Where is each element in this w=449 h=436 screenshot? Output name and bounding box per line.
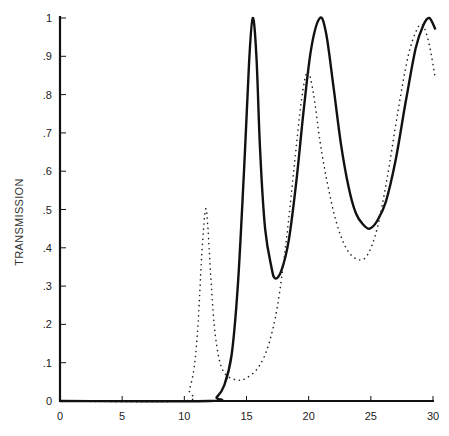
solid-series-line xyxy=(60,17,436,401)
x-tick-label: 5 xyxy=(119,410,125,422)
y-axis-title: TRANSMISSION xyxy=(13,178,25,265)
x-tick-label: 0 xyxy=(57,410,63,422)
x-tick-label: 30 xyxy=(427,410,439,422)
y-tick-label: .2 xyxy=(43,318,52,330)
x-tick-label: 10 xyxy=(178,410,190,422)
y-tick-label: .6 xyxy=(43,165,52,177)
y-tick-label: .4 xyxy=(43,242,52,254)
x-tick-label: 20 xyxy=(303,410,315,422)
x-tick-label: 15 xyxy=(240,410,252,422)
y-tick-label: .7 xyxy=(43,127,52,139)
transmission-chart: 051015202530 0.1.2.3.4.5.6.7.8.91 TRANSM… xyxy=(0,0,449,436)
y-tick-label: 0 xyxy=(46,395,52,407)
y-tick-label: .5 xyxy=(43,204,52,216)
y-tick-label: 1 xyxy=(46,12,52,24)
y-ticks: 0.1.2.3.4.5.6.7.8.91 xyxy=(43,12,66,407)
y-tick-label: .3 xyxy=(43,280,52,292)
plot-lines xyxy=(60,17,436,401)
x-tick-label: 25 xyxy=(365,410,377,422)
y-tick-label: .1 xyxy=(43,357,52,369)
axes xyxy=(59,16,434,402)
y-tick-label: .9 xyxy=(43,50,52,62)
y-tick-label: .8 xyxy=(43,89,52,101)
